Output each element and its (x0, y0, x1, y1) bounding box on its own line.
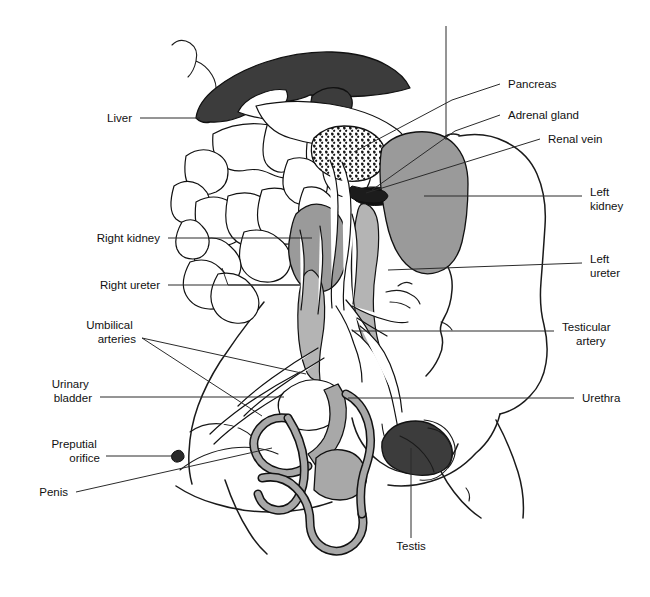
label-urinary-bladder: Urinary bladder (52, 378, 92, 404)
label-liver: Liver (107, 112, 132, 124)
leader-umbilical-b (142, 338, 262, 416)
anatomy-figure: Liver Right kidney Right ureter Umbilica… (0, 0, 650, 597)
label-penis: Penis (39, 486, 68, 498)
label-preputial-orifice: Preputial orifice (51, 438, 100, 464)
leader-umbilical-a (142, 338, 306, 374)
label-renal-vein: Renal vein (548, 133, 602, 145)
label-urethra: Urethra (582, 392, 621, 404)
label-umbilical-arteries: Umbilical arteries (86, 319, 136, 345)
testis-organ (382, 420, 455, 480)
testicular-artery-vessel (352, 326, 402, 440)
label-right-kidney: Right kidney (97, 232, 161, 244)
label-right-ureter: Right ureter (100, 279, 160, 291)
label-pancreas: Pancreas (508, 78, 557, 90)
label-testis: Testis (396, 540, 426, 552)
label-left-ureter: Left ureter (590, 253, 620, 279)
anatomy-illustration: Liver Right kidney Right ureter Umbilica… (0, 0, 650, 597)
label-adrenal-gland: Adrenal gland (508, 109, 579, 121)
label-left-kidney: Left kidney (590, 186, 623, 212)
label-testicular-artery: Testicular artery (562, 321, 614, 347)
